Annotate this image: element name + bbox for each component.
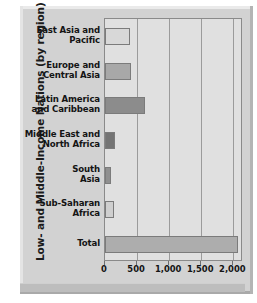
x-tick-label: 1,500: [187, 264, 214, 274]
category-label-line: Europe and: [14, 60, 100, 71]
category-label-line: Middle East and: [14, 129, 100, 140]
category-label-line: Central Asia: [14, 70, 100, 81]
category-label-line: and Caribbean: [14, 104, 100, 115]
bar[interactable]: [105, 132, 115, 149]
bar[interactable]: [105, 201, 114, 218]
x-tick-mark: [232, 261, 233, 265]
category-label: SouthAsia: [14, 164, 100, 185]
x-tick-label: 2,000: [219, 264, 246, 274]
category-label: Middle East andNorth Africa: [14, 129, 100, 150]
x-tick-mark: [104, 261, 105, 265]
frame-top-highlight: [20, 6, 253, 9]
gridline: [233, 19, 234, 260]
frame-left-highlight: [20, 6, 23, 294]
bar[interactable]: [105, 63, 131, 80]
bar-group: [105, 167, 111, 184]
bar[interactable]: [105, 236, 238, 253]
bar[interactable]: [105, 97, 145, 114]
category-label-line: Latin America: [14, 94, 100, 105]
category-label-line: North Africa: [14, 139, 100, 150]
category-label-line: Total: [14, 238, 100, 249]
chart-figure: Low- and Middle-Income Nations (by regio…: [0, 0, 257, 303]
x-tick-label: 1,000: [155, 264, 182, 274]
category-label: Europe andCentral Asia: [14, 60, 100, 81]
bar-group: [105, 132, 115, 149]
x-tick-mark: [136, 261, 137, 265]
plot-area: [104, 18, 242, 261]
gridline: [201, 19, 202, 260]
category-label-line: Asia: [14, 174, 100, 185]
bar[interactable]: [105, 167, 111, 184]
frame-bottom-bar: [20, 283, 245, 292]
x-tick-label: 0: [101, 264, 107, 274]
category-label-line: Pacific: [14, 35, 100, 46]
bar-group: [105, 97, 145, 114]
category-label: Latin Americaand Caribbean: [14, 94, 100, 115]
x-tick-mark: [168, 261, 169, 265]
gridline: [169, 19, 170, 260]
bar[interactable]: [105, 28, 130, 45]
bar-group: [105, 63, 131, 80]
x-tick-label: 500: [127, 264, 144, 274]
bar-group: [105, 236, 238, 253]
frame-right-shadow: [250, 6, 253, 294]
category-label-line: East Asia and: [14, 25, 100, 36]
category-label-line: Africa: [14, 208, 100, 219]
category-label-line: South: [14, 164, 100, 175]
bar-group: [105, 28, 130, 45]
category-label: East Asia andPacific: [14, 25, 100, 46]
category-label: Total: [14, 238, 100, 249]
bar-group: [105, 201, 114, 218]
category-label-line: Sub-Saharan: [14, 198, 100, 209]
category-label: Sub-SaharanAfrica: [14, 198, 100, 219]
x-tick-mark: [200, 261, 201, 265]
gridline: [137, 19, 138, 260]
